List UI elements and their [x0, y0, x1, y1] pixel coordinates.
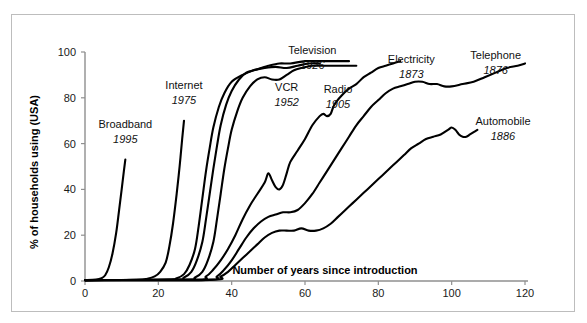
- series-line-internet: [85, 121, 184, 280]
- series-label-automobile: Automobile: [475, 115, 530, 127]
- series-year-vcr: 1952: [274, 96, 298, 108]
- chart-svg: 020406080100120 020406080100 Broadband19…: [0, 0, 587, 323]
- x-tick-label: 100: [442, 287, 460, 299]
- x-tick-label: 80: [372, 287, 384, 299]
- y-axis-title: % of households using (USA): [28, 95, 40, 249]
- x-tick-label: 60: [299, 287, 311, 299]
- x-tick-labels: 020406080100120: [82, 281, 534, 299]
- series-line-broadband: [85, 160, 125, 280]
- x-tick-label: 120: [516, 287, 534, 299]
- y-tick-label: 60: [64, 138, 76, 150]
- y-tick-label: 100: [58, 46, 76, 58]
- y-tick-label: 0: [70, 275, 76, 287]
- series-label-vcr: VCR: [275, 81, 298, 93]
- series-line-automobile: [85, 128, 477, 281]
- series-year-internet: 1975: [172, 94, 197, 106]
- x-tick-label: 40: [226, 287, 238, 299]
- series-label-internet: Internet: [165, 79, 202, 91]
- y-tick-label: 20: [64, 229, 76, 241]
- series-line-telephone: [85, 63, 525, 280]
- y-tick-labels: 020406080100: [58, 46, 85, 287]
- series-year-telephone: 1876: [483, 64, 508, 76]
- y-tick-label: 40: [64, 183, 76, 195]
- series-label-broadband: Broadband: [98, 118, 152, 130]
- series-year-television: 1926: [300, 59, 325, 71]
- y-tick-label: 80: [64, 92, 76, 104]
- series-year-automobile: 1886: [491, 130, 516, 142]
- x-tick-label: 0: [82, 287, 88, 299]
- series-label-television: Television: [288, 44, 336, 56]
- series-line-electricity: [85, 61, 400, 280]
- series-label-electricity: Electricity: [388, 53, 436, 65]
- x-axis-title: Number of years since introduction: [232, 264, 417, 276]
- series-year-broadband: 1995: [113, 133, 138, 145]
- series-curves: [85, 61, 525, 280]
- axes: [85, 52, 528, 281]
- x-tick-label: 20: [152, 287, 164, 299]
- series-label-telephone: Telephone: [470, 49, 521, 61]
- series-year-electricity: 1873: [399, 68, 424, 80]
- series-year-radio: 1905: [326, 98, 351, 110]
- adoption-curves-chart: 020406080100120 020406080100 Broadband19…: [0, 0, 587, 323]
- series-annotations: Broadband1995Internet1975VCR1952Televisi…: [98, 44, 530, 144]
- series-label-radio: Radio: [324, 83, 353, 95]
- series-line-radio: [85, 66, 356, 281]
